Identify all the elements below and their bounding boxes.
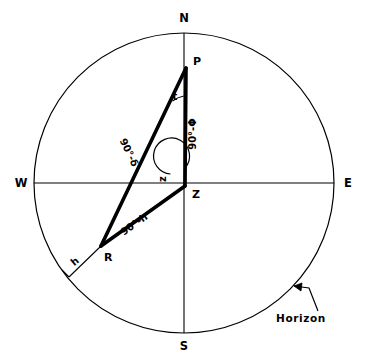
diagram-canvas: N S E W P Z R 90°-Φ 90°-δ 90°-h t z h Ho… bbox=[0, 0, 368, 362]
horizon-leader-line bbox=[294, 286, 318, 311]
altitude-label: h bbox=[68, 255, 81, 268]
side-label-pole-zenith: 90°-Φ bbox=[187, 118, 198, 150]
angle-label-hour: t bbox=[173, 91, 178, 102]
vertex-label-zenith: Z bbox=[192, 188, 200, 201]
horizon-annotation-label: Horizon bbox=[276, 312, 326, 324]
celestial-diagram: N S E W P Z R 90°-Φ 90°-δ 90°-h t z h Ho… bbox=[0, 0, 368, 362]
cardinal-label-south: S bbox=[180, 339, 188, 353]
side-label-zenith-star: 90°-h bbox=[118, 211, 149, 237]
vertex-label-star: R bbox=[104, 251, 113, 264]
cardinal-label-west: W bbox=[15, 176, 28, 190]
side-label-pole-star: 90°-δ bbox=[118, 137, 141, 169]
cardinal-label-east: E bbox=[344, 176, 352, 190]
vertex-label-pole: P bbox=[193, 55, 201, 68]
angle-label-azimuth: z bbox=[157, 176, 168, 182]
altitude-tick bbox=[62, 270, 69, 277]
cardinal-label-north: N bbox=[179, 11, 189, 25]
